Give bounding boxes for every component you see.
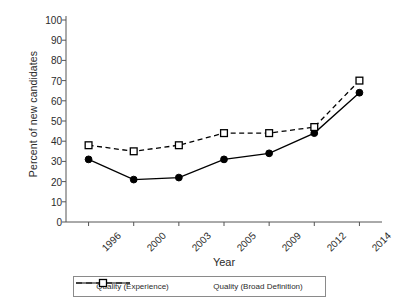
x-axis-title: Year <box>66 256 382 268</box>
data-point-marker <box>130 148 137 155</box>
data-point-marker <box>175 142 182 149</box>
data-point-marker <box>356 77 363 84</box>
data-point-marker <box>356 89 363 96</box>
legend-key-dashed-square-icon <box>74 277 132 289</box>
data-point-marker <box>85 156 92 163</box>
chart-container: Percent of new candidates 01020304050607… <box>0 0 400 306</box>
data-point-marker <box>130 176 137 183</box>
data-point-marker <box>266 130 273 137</box>
legend-item[interactable]: Quality (Broad Definition) <box>213 282 302 291</box>
data-point-marker <box>175 174 182 181</box>
data-point-marker <box>311 124 318 131</box>
data-point-marker <box>266 150 273 157</box>
data-point-marker <box>221 130 228 137</box>
legend-label: Quality (Broad Definition) <box>213 282 302 291</box>
data-point-marker <box>221 156 228 163</box>
series-line <box>89 81 360 152</box>
chart-legend: Quality (Experience) Quality (Broad Defi… <box>73 276 326 297</box>
data-point-marker <box>85 142 92 149</box>
